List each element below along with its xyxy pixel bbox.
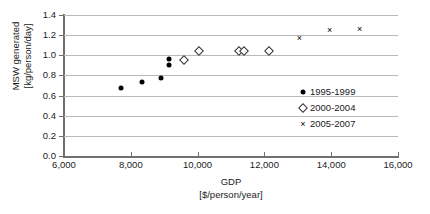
x-axis-title: GDP [$/person/year] [64, 176, 398, 201]
x-tick-label: 8,000 [119, 160, 143, 170]
marker-filled-circle-icon [140, 80, 145, 85]
marker-filled-circle-icon [158, 76, 163, 81]
chart-legend: 1995-19992000-2004×2005-2007 [296, 84, 355, 132]
y-axis-title-line1: MSW generated [10, 0, 22, 116]
gridline [64, 136, 398, 137]
marker-filled-circle-icon [301, 90, 306, 95]
x-tick-label: 12,000 [250, 160, 279, 170]
legend-item-label: 2005-2007 [310, 119, 355, 129]
y-tick-label: 0.6 [43, 91, 56, 101]
marker-filled-circle-icon [167, 62, 172, 67]
x-tick-label: 6,000 [52, 160, 76, 170]
gridline [64, 75, 398, 76]
x-tick-label: 14,000 [317, 160, 346, 170]
y-tick-label: 0.2 [43, 131, 56, 141]
legend-item: ×2005-2007 [296, 116, 355, 132]
y-axis-title-units: [kg/person/day] [22, 0, 34, 116]
gridline [64, 15, 398, 16]
x-axis-title-units: [$/person/year] [64, 189, 398, 202]
marker-open-diamond-icon [234, 46, 244, 56]
marker-cross-icon: × [326, 26, 334, 34]
legend-symbol: × [296, 117, 310, 131]
marker-filled-circle-icon [118, 85, 123, 90]
chart-figure: MSW generated [kg/person/day] 0.00.20.40… [0, 0, 430, 214]
x-axis-line [63, 156, 399, 158]
y-axis-title: MSW generated [kg/person/day] [10, 0, 34, 116]
marker-open-diamond-icon [239, 46, 249, 56]
marker-cross-icon: × [356, 25, 364, 33]
y-tick-label: 1.2 [43, 30, 56, 40]
x-tick-label: 10,000 [183, 160, 212, 170]
marker-filled-circle-icon [167, 56, 172, 61]
legend-item-label: 1995-1999 [310, 87, 355, 97]
x-tick-label: 16,000 [383, 160, 412, 170]
x-tick-mark [398, 152, 399, 157]
x-axis-title-line1: GDP [64, 176, 398, 189]
legend-symbol [296, 101, 310, 115]
legend-item: 2000-2004 [296, 100, 355, 116]
y-tick-label: 1.4 [43, 10, 56, 20]
marker-cross-icon: × [299, 120, 307, 128]
y-tick-label: 1.0 [43, 50, 56, 60]
gridline [64, 35, 398, 36]
marker-open-diamond-icon [179, 55, 189, 65]
y-tick-mark [59, 156, 64, 157]
gridline [64, 55, 398, 56]
legend-item: 1995-1999 [296, 84, 355, 100]
marker-open-diamond-icon [298, 103, 308, 113]
legend-symbol [296, 85, 310, 99]
y-tick-label: 0.4 [43, 111, 56, 121]
y-tick-label: 0.8 [43, 70, 56, 80]
legend-item-label: 2000-2004 [310, 103, 355, 113]
